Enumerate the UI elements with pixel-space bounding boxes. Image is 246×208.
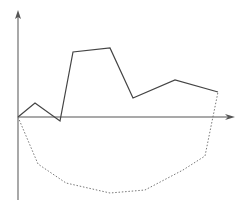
line-diagram <box>0 0 246 208</box>
solid-series-line <box>18 48 218 121</box>
y-axis <box>15 10 21 200</box>
dotted-series-line <box>18 92 218 193</box>
